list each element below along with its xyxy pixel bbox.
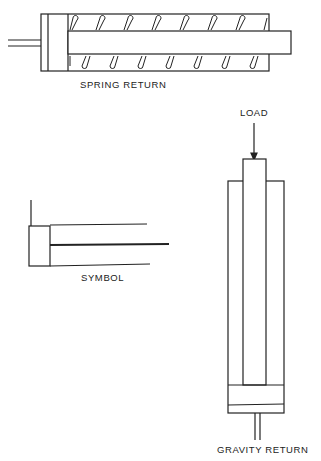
- cylinder-diagrams: [0, 0, 321, 461]
- spring-return-cylinder: [8, 14, 291, 71]
- cylinder-symbol: [29, 200, 169, 266]
- gravity-return-label: GRAVITY RETURN: [217, 444, 308, 455]
- symbol-label: SYMBOL: [81, 272, 124, 283]
- gravity-return-cylinder: [228, 123, 284, 440]
- load-label: LOAD: [240, 107, 268, 118]
- spring-return-label: SPRING RETURN: [80, 79, 166, 90]
